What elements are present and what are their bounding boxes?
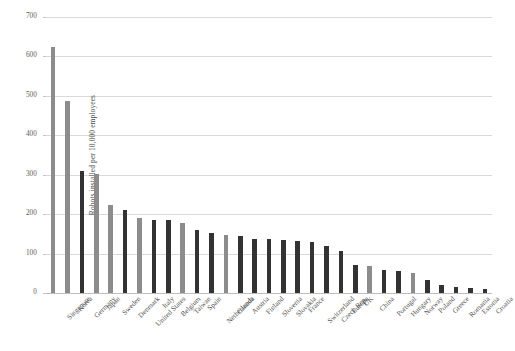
- bar: [295, 241, 300, 293]
- bar: [209, 233, 214, 293]
- bar: [166, 220, 171, 293]
- bar: [382, 270, 387, 293]
- bar: [367, 266, 372, 293]
- plot-area: 0100200300400500600700 Robots installed …: [46, 17, 492, 293]
- bar: [483, 289, 488, 293]
- x-axis-tick-labels: SingaporeKoreaGermanyJapanSwedenDenmarkU…: [46, 295, 492, 351]
- bar: [238, 236, 243, 293]
- bar: [425, 280, 430, 293]
- bar: [339, 251, 344, 293]
- bar: [152, 220, 157, 293]
- bar: [252, 239, 257, 293]
- bar: [454, 287, 459, 293]
- bar: [468, 288, 473, 293]
- bar: [51, 47, 56, 293]
- bar: [123, 210, 128, 293]
- bars-group: [46, 17, 492, 293]
- y-axis-tick-label: 300: [1, 171, 37, 178]
- bar: [411, 273, 416, 293]
- bar: [108, 205, 113, 293]
- bar: [94, 174, 99, 293]
- bar: [224, 235, 229, 293]
- bar: [267, 239, 272, 293]
- x-axis-line: [46, 293, 492, 294]
- bar: [80, 171, 85, 293]
- bar: [324, 246, 329, 293]
- x-axis-tick-label: Korea: [76, 295, 94, 313]
- bar: [65, 101, 70, 293]
- x-axis-tick-label: China: [378, 295, 396, 313]
- bar: [396, 271, 401, 293]
- y-axis-tick-label: 0: [1, 289, 37, 296]
- y-axis-tick-label: 500: [1, 92, 37, 99]
- bar: [195, 230, 200, 293]
- y-axis-tick-label: 600: [1, 52, 37, 59]
- y-axis-tick-mark: [43, 293, 46, 294]
- bar: [439, 285, 444, 293]
- y-axis-tick-label: 100: [1, 250, 37, 257]
- y-axis-tick-label: 400: [1, 131, 37, 138]
- y-axis-tick-label: 700: [1, 13, 37, 20]
- bar: [310, 242, 315, 293]
- bar: [180, 223, 185, 293]
- bar: [281, 240, 286, 293]
- y-axis-tick-label: 200: [1, 210, 37, 217]
- bar: [353, 265, 358, 293]
- bar: [137, 218, 142, 293]
